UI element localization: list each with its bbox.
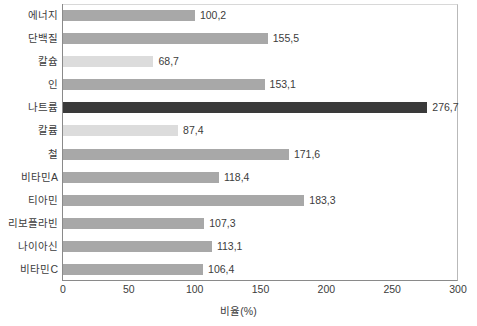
bar-value-label: 68,7 <box>158 50 178 73</box>
bar <box>63 102 427 113</box>
category-label: 비타민A <box>21 166 58 189</box>
bar <box>63 33 268 44</box>
category-label: 나트륨 <box>28 96 58 119</box>
bar-chart: 에너지100,2단백질155,5칼슘68,7인153,1나트륨276,7칼륨87… <box>0 0 477 326</box>
bar <box>63 79 265 90</box>
bar-row: 철171,6 <box>0 143 477 166</box>
category-label: 인 <box>48 73 58 96</box>
bar-row: 칼슘68,7 <box>0 50 477 73</box>
category-label: 비타민C <box>20 258 58 281</box>
bar-value-label: 106,4 <box>208 258 234 281</box>
x-tick-label: 300 <box>449 283 467 295</box>
bar-row: 에너지100,2 <box>0 4 477 27</box>
bar-value-label: 171,6 <box>294 143 320 166</box>
x-tick-label: 50 <box>123 283 135 295</box>
bar-row: 티아민183,3 <box>0 189 477 212</box>
bar <box>63 241 212 252</box>
bar-row: 인153,1 <box>0 73 477 96</box>
category-label: 칼륨 <box>38 119 58 142</box>
bar-value-label: 183,3 <box>309 189 335 212</box>
x-tick-label: 200 <box>318 283 336 295</box>
category-label: 에너지 <box>28 4 58 27</box>
bar <box>63 149 289 160</box>
category-label: 단백질 <box>28 27 58 50</box>
bar-value-label: 100,2 <box>200 4 226 27</box>
bar <box>63 172 219 183</box>
x-tick-label: 0 <box>60 283 66 295</box>
x-tick-label: 250 <box>383 283 401 295</box>
bar-row: 비타민A118,4 <box>0 166 477 189</box>
bar-row: 나이아신113,1 <box>0 235 477 258</box>
bar-row: 비타민C106,4 <box>0 258 477 281</box>
bar-row: 단백질155,5 <box>0 27 477 50</box>
bar-row: 나트륨276,7 <box>0 96 477 119</box>
bar <box>63 264 203 275</box>
bar-value-label: 118,4 <box>224 166 250 189</box>
category-label: 칼슘 <box>38 50 58 73</box>
bar <box>63 56 153 67</box>
x-tick-label: 100 <box>186 283 204 295</box>
category-label: 티아민 <box>28 189 58 212</box>
bar <box>63 10 195 21</box>
bar <box>63 218 204 229</box>
x-axis-label: 비율(%) <box>0 303 477 318</box>
x-axis-ticks: 050100150200250300 <box>0 283 477 299</box>
bar <box>63 125 178 136</box>
bar <box>63 195 304 206</box>
category-label: 철 <box>48 143 58 166</box>
bar-value-label: 113,1 <box>217 235 243 258</box>
bar-value-label: 155,5 <box>273 27 299 50</box>
bar-value-label: 87,4 <box>183 119 203 142</box>
bar-value-label: 153,1 <box>270 73 296 96</box>
bar-row: 리보플라빈107,3 <box>0 212 477 235</box>
bar-rows-container: 에너지100,2단백질155,5칼슘68,7인153,1나트륨276,7칼륨87… <box>0 4 477 281</box>
bar-value-label: 107,3 <box>209 212 235 235</box>
x-tick-label: 150 <box>252 283 270 295</box>
bar-value-label: 276,7 <box>432 96 458 119</box>
bar-row: 칼륨87,4 <box>0 119 477 142</box>
category-label: 나이아신 <box>18 235 58 258</box>
category-label: 리보플라빈 <box>8 212 58 235</box>
